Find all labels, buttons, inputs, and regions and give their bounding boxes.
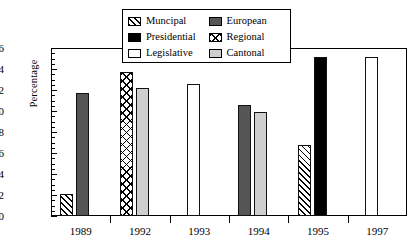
- legend-item: Regional: [209, 29, 286, 45]
- bar-chart: Percentage 02468101214161989199219931994…: [0, 0, 418, 250]
- legend-label: Muncipal: [146, 16, 186, 27]
- legend-swatch-lightgray-icon: [209, 49, 222, 58]
- bar-fill: [239, 106, 250, 215]
- bar: [76, 93, 89, 216]
- legend-label: Legislative: [146, 48, 193, 59]
- x-tick-mark: [348, 216, 349, 223]
- bar-fill: [315, 58, 326, 215]
- bar-fill: [255, 113, 266, 215]
- x-tick-mark: [110, 216, 111, 223]
- legend-label: Cantonal: [227, 48, 265, 59]
- bar: [136, 88, 149, 216]
- y-tick-label: 16: [0, 43, 4, 54]
- legend-item: Muncipal: [128, 13, 205, 29]
- bar-fill: [188, 85, 199, 215]
- bar: [60, 194, 73, 216]
- y-tick-mark: [51, 216, 57, 217]
- legend: MuncipalEuropeanPresidentialRegionalLegi…: [122, 9, 291, 63]
- y-tick-label: 12: [0, 85, 4, 96]
- bar: [298, 145, 311, 216]
- y-tick-label: 0: [0, 211, 4, 222]
- bar-fill: [137, 89, 148, 215]
- legend-item: European: [209, 13, 286, 29]
- legend-label: Regional: [227, 32, 265, 43]
- legend-swatch-black-icon: [128, 33, 141, 42]
- bars-layer: [51, 48, 407, 216]
- bar-fill: [299, 146, 310, 215]
- x-tick-mark: [170, 216, 171, 223]
- legend-label: Presidential: [146, 32, 196, 43]
- y-tick-label: 14: [0, 64, 4, 75]
- legend-swatch-white-icon: [128, 49, 141, 58]
- legend-swatch-hatch-icon: [128, 17, 141, 26]
- legend-label: European: [227, 16, 267, 27]
- legend-item: Presidential: [128, 29, 205, 45]
- bar: [238, 105, 251, 216]
- bar: [187, 84, 200, 216]
- y-axis-title: Percentage: [28, 24, 39, 144]
- bar-fill: [61, 195, 72, 215]
- legend-swatch-darkgray-icon: [209, 17, 222, 26]
- legend-item: Legislative: [128, 45, 205, 61]
- bar-fill: [77, 94, 88, 215]
- bar: [314, 57, 327, 216]
- bar: [120, 72, 133, 216]
- x-tick-label: 1997: [337, 226, 417, 237]
- x-tick-mark: [288, 216, 289, 223]
- y-tick-label: 10: [0, 106, 4, 117]
- legend-swatch-cross-icon: [209, 33, 222, 42]
- y-tick-label: 2: [0, 190, 4, 201]
- y-tick-label: 6: [0, 148, 4, 159]
- bar: [365, 57, 378, 216]
- bar-fill: [121, 73, 132, 215]
- x-tick-mark: [229, 216, 230, 223]
- bar-fill: [366, 58, 377, 215]
- y-tick-label: 4: [0, 169, 4, 180]
- bar: [254, 112, 267, 216]
- y-tick-label: 8: [0, 127, 4, 138]
- legend-item: Cantonal: [209, 45, 286, 61]
